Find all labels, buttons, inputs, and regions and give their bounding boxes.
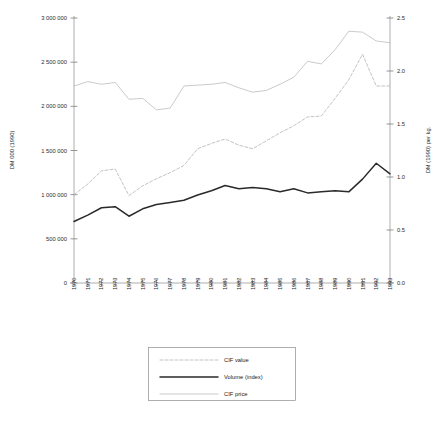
x-axis-tick-label: 1973 — [112, 278, 118, 290]
right-axis: 0.00.51.01.52.02.5 — [387, 15, 406, 286]
x-axis-tick-label: 1970 — [71, 278, 77, 290]
right-axis-tick-label: 1.5 — [397, 121, 405, 127]
x-axis-tick-label: 1988 — [318, 278, 324, 290]
right-axis-tick-label: 0.5 — [397, 227, 405, 233]
x-axis-tick-label: 1980 — [208, 278, 214, 290]
legend-label: CIF price — [224, 391, 248, 397]
x-axis-tick-label: 1989 — [332, 278, 338, 290]
left-axis-tick-label: 2 500 000 — [41, 59, 67, 65]
series-layer — [74, 31, 390, 221]
x-axis-tick-label: 1971 — [85, 278, 91, 290]
legend-label: Volume (index) — [224, 374, 263, 380]
right-axis-title: DM (1990) per kg. — [425, 126, 431, 173]
x-axis-tick-label: 1986 — [291, 278, 297, 290]
right-axis-tick-label: 1.0 — [397, 174, 405, 180]
chart-figure: 0500 0001 000 0001 500 0002 000 0002 500… — [0, 0, 440, 424]
series-line-cif-value — [74, 54, 390, 195]
x-axis-tick-label: 1972 — [98, 278, 104, 290]
left-axis-tick-label: 1 500 000 — [41, 148, 67, 154]
series-line-volume-index — [74, 163, 390, 221]
x-axis-tick-label: 1982 — [236, 278, 242, 290]
x-axis-tick-label: 1984 — [263, 278, 269, 290]
legend-box — [149, 348, 296, 401]
left-axis-tick-label: 3 000 000 — [41, 15, 67, 21]
x-axis-tick-label: 1981 — [222, 278, 228, 290]
x-axis-tick-label: 1974 — [126, 278, 132, 290]
x-axis: 1970197119721973197419751976197719781979… — [70, 278, 394, 290]
left-axis-tick-label: 2 000 000 — [41, 103, 67, 109]
x-axis-tick-label: 1975 — [140, 278, 146, 290]
left-axis-tick-label: 500 000 — [46, 236, 67, 242]
x-axis-tick-label: 1993 — [387, 278, 393, 290]
x-axis-tick-label: 1983 — [250, 278, 256, 290]
left-axis: 0500 0001 000 0001 500 0002 000 0002 500… — [41, 15, 77, 286]
x-axis-tick-label: 1992 — [373, 278, 379, 290]
left-axis-tick-label: 0 — [64, 280, 67, 286]
right-axis-tick-label: 2.5 — [397, 15, 405, 21]
x-axis-tick-label: 1990 — [346, 278, 352, 290]
x-axis-tick-label: 1978 — [181, 278, 187, 290]
x-axis-tick-label: 1991 — [360, 278, 366, 290]
left-axis-title: DM 000 (1990) — [9, 131, 15, 170]
left-axis-tick-label: 1 000 000 — [41, 192, 67, 198]
x-axis-tick-label: 1985 — [277, 278, 283, 290]
line-chart: 0500 0001 000 0001 500 0002 000 0002 500… — [0, 0, 440, 424]
right-axis-tick-label: 2.0 — [397, 68, 405, 74]
right-axis-tick-label: 0.0 — [397, 280, 405, 286]
x-axis-tick-label: 1979 — [195, 278, 201, 290]
series-line-cif-price — [74, 31, 390, 110]
x-axis-tick-label: 1977 — [167, 278, 173, 290]
chart-legend: CIF valueVolume (index)CIF price — [149, 348, 296, 401]
x-axis-tick-label: 1987 — [305, 278, 311, 290]
x-axis-tick-label: 1976 — [153, 278, 159, 290]
legend-label: CIF value — [224, 357, 249, 363]
